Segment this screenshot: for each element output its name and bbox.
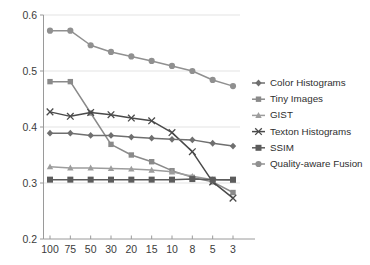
data-point xyxy=(169,129,176,136)
legend-swatch-marker xyxy=(255,161,261,167)
data-point xyxy=(67,177,73,183)
data-point xyxy=(88,177,94,183)
series-layer xyxy=(47,28,237,202)
legend-label: SSIM xyxy=(270,142,294,153)
data-point xyxy=(210,177,216,183)
data-point xyxy=(189,148,196,155)
x-axis-tick-label: 30 xyxy=(105,243,117,255)
x-axis-tick-labels: 100755030201510853 xyxy=(41,243,236,255)
data-point xyxy=(108,49,114,55)
x-axis-tick-label: 100 xyxy=(41,243,59,255)
legend-label: GIST xyxy=(270,109,293,120)
series-quality-aware-fusion xyxy=(47,28,236,90)
x-axis-tick-label: 75 xyxy=(64,243,76,255)
data-point xyxy=(47,79,52,84)
data-point xyxy=(108,132,114,139)
data-point xyxy=(169,63,175,69)
data-point xyxy=(230,143,236,150)
y-axis-tick-label: 0.5 xyxy=(22,65,37,77)
data-point xyxy=(87,132,93,139)
data-point xyxy=(47,28,53,34)
x-axis-tick-label: 5 xyxy=(210,243,216,255)
data-point xyxy=(148,135,154,142)
chart-figure: 0.60.50.40.30.2 100755030201510853 Color… xyxy=(0,0,370,265)
data-point xyxy=(149,58,155,64)
legend-label: Color Histograms xyxy=(270,77,346,88)
series-line xyxy=(50,133,233,146)
legend-item-quality-aware-fusion[interactable]: Quality-aware Fusion xyxy=(252,158,363,169)
data-point xyxy=(230,83,236,89)
data-point xyxy=(128,177,134,183)
data-point xyxy=(210,77,216,83)
legend-label: Quality-aware Fusion xyxy=(270,158,363,169)
series-line xyxy=(50,167,233,180)
legend-item-ssim[interactable]: SSIM xyxy=(252,142,294,153)
data-point xyxy=(189,176,195,182)
data-point xyxy=(149,177,155,183)
data-point xyxy=(67,130,73,137)
legend-item-texton-histograms[interactable]: Texton Histograms xyxy=(252,126,351,137)
data-point xyxy=(169,177,175,183)
data-point xyxy=(189,68,195,74)
data-point xyxy=(68,79,73,84)
x-axis-tick-label: 8 xyxy=(189,243,195,255)
legend-label: Tiny Images xyxy=(270,93,323,104)
data-point xyxy=(108,177,114,183)
x-axis-tick-label: 15 xyxy=(146,243,158,255)
data-point xyxy=(230,177,236,183)
series-line xyxy=(50,112,233,198)
series-ssim xyxy=(47,176,236,183)
series-line xyxy=(50,31,233,86)
series-line xyxy=(50,179,233,180)
legend-item-gist[interactable]: GIST xyxy=(252,109,293,120)
data-point xyxy=(169,136,175,143)
data-point xyxy=(230,195,237,202)
x-axis-tick-label: 10 xyxy=(166,243,178,255)
data-point xyxy=(67,28,73,34)
y-axis-tick-labels: 0.60.50.40.30.2 xyxy=(22,9,37,245)
legend-swatch-marker xyxy=(256,145,262,151)
legend-item-tiny-images[interactable]: Tiny Images xyxy=(252,93,323,104)
data-point xyxy=(47,130,53,137)
legend-item-color-histograms[interactable]: Color Histograms xyxy=(252,77,346,88)
data-point xyxy=(47,177,53,183)
data-point xyxy=(129,152,134,157)
legend-label: Texton Histograms xyxy=(270,126,351,137)
data-point xyxy=(230,190,235,195)
data-point xyxy=(88,42,94,48)
legend-swatch-marker xyxy=(255,80,261,87)
legend: Color HistogramsTiny ImagesGISTTexton Hi… xyxy=(252,77,363,169)
series-color-histograms xyxy=(47,130,236,150)
data-point xyxy=(189,136,195,143)
y-axis-tick-label: 0.2 xyxy=(22,233,37,245)
data-point xyxy=(128,134,134,141)
x-axis-tick-label: 50 xyxy=(85,243,97,255)
y-axis-tick-label: 0.4 xyxy=(22,121,37,133)
x-axis-tick-label: 20 xyxy=(125,243,137,255)
data-point xyxy=(128,53,134,59)
data-point xyxy=(209,140,215,147)
data-point xyxy=(149,159,154,164)
line-chart: 0.60.50.40.30.2 100755030201510853 Color… xyxy=(0,0,370,265)
data-point xyxy=(108,142,113,147)
series-texton-histograms xyxy=(47,109,237,202)
y-axis-tick-label: 0.3 xyxy=(22,177,37,189)
x-axis-tick-label: 3 xyxy=(230,243,236,255)
legend-swatch-marker xyxy=(256,97,261,102)
y-axis-tick-label: 0.6 xyxy=(22,9,37,21)
